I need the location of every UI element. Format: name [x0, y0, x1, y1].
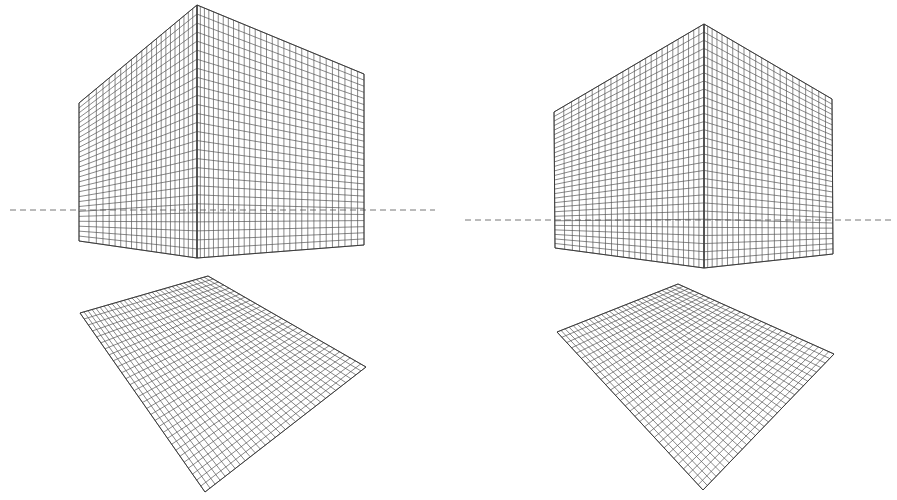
left-panel [10, 5, 435, 492]
cube-right-face-grid [197, 5, 364, 258]
floor-grid-left [80, 276, 366, 492]
cube-left-face-grid [79, 5, 197, 258]
perspective-figure [0, 0, 897, 500]
right-panel [465, 24, 893, 490]
floor-grid-right [557, 284, 834, 490]
cube-left-face-grid [554, 24, 704, 268]
cube-right-face-grid [704, 24, 833, 268]
